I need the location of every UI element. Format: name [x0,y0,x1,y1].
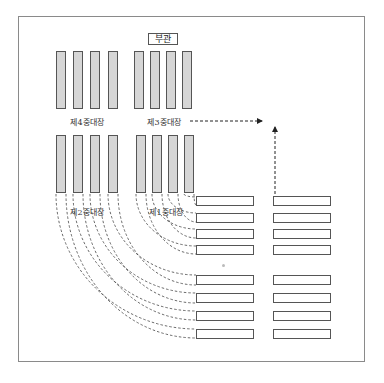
movement-paths [0,0,384,383]
dashed-arc-paths [56,194,196,338]
